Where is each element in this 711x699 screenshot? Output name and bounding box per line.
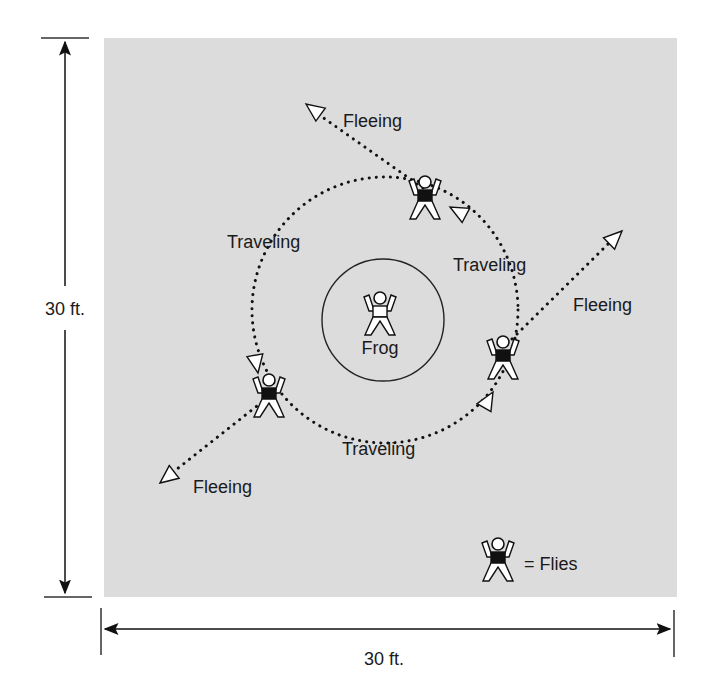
- horizontal-dimension: 30 ft.: [101, 608, 674, 669]
- legend-text: = Flies: [524, 554, 578, 574]
- frog-and-flies-diagram: 30 ft. 30 ft. Frog Fleeing Fleeing Fleei…: [0, 0, 711, 699]
- horizontal-dimension-label: 30 ft.: [364, 649, 404, 669]
- traveling-label-bottom: Traveling: [342, 439, 415, 459]
- traveling-label-right: Traveling: [453, 255, 526, 275]
- frog-label: Frog: [361, 338, 398, 358]
- fleeing-label-top: Fleeing: [343, 111, 402, 131]
- traveling-label-left: Traveling: [227, 232, 300, 252]
- fleeing-label-left: Fleeing: [193, 477, 252, 497]
- vertical-dimension: 30 ft.: [41, 38, 92, 597]
- fleeing-label-right: Fleeing: [573, 295, 632, 315]
- vertical-dimension-label: 30 ft.: [45, 299, 85, 319]
